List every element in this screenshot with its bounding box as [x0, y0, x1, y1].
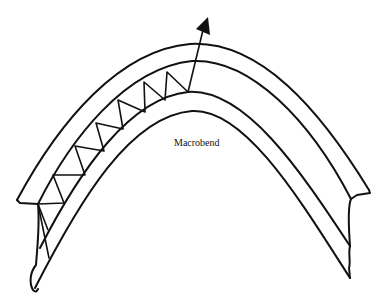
cladding-outer-boundary [17, 44, 369, 200]
core-upper-boundary [38, 61, 351, 204]
left-bottom-end [31, 204, 39, 292]
right-end-cap [349, 190, 370, 278]
macrobend-diagram [0, 0, 384, 303]
macrobend-label: Macrobend [174, 137, 220, 148]
core-lower-boundary [40, 92, 350, 248]
left-end-cap [17, 200, 38, 204]
